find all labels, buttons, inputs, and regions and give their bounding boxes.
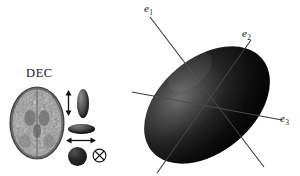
ellipsoid-body — [130, 23, 292, 176]
circled-cross-icon — [92, 148, 107, 163]
isotropic-sphere-glyph — [68, 147, 87, 166]
dec-map-label: DEC — [26, 66, 53, 81]
eigenvector-label-e2-sub: 2 — [247, 33, 251, 42]
diffusion-tensor-ellipsoid-graphic — [130, 0, 300, 176]
eigenvector-label-e1-sub: 1 — [149, 8, 153, 17]
eigenvector-label-e1: e1 — [144, 2, 153, 14]
double-arrow-vertical-icon — [64, 90, 73, 116]
prolate-ellipsoid-glyph — [77, 89, 89, 118]
axial-brain-slice-image — [8, 85, 66, 161]
dec-map-panel: DEC — [0, 0, 140, 176]
eigenvector-label-e2: e2 — [242, 27, 251, 39]
dti-figure: DEC — [0, 0, 300, 176]
oblate-ellipsoid-glyph — [68, 124, 95, 134]
tensor-ellipsoid-panel: e1 e2 e3 — [130, 0, 300, 176]
eigenvector-label-e3-sub: 3 — [285, 118, 289, 127]
eigenvector-label-e3: e3 — [280, 112, 289, 124]
double-arrow-horizontal-icon — [66, 136, 96, 145]
